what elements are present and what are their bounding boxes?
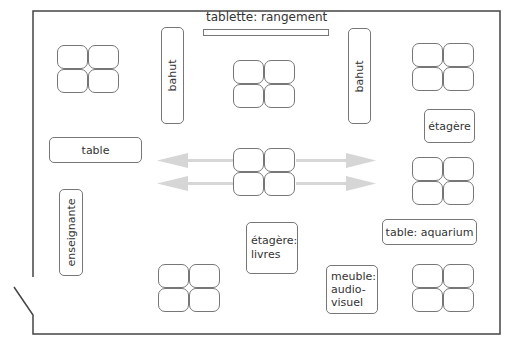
desk [412,157,443,181]
desk [189,264,220,288]
tablette-rangement-label: tablette: rangement [206,10,327,24]
arrow-right-lower-icon [296,176,376,191]
meuble-line1: meuble: [331,270,376,283]
desk [233,84,264,108]
enseignante-label: enseignante [65,198,78,266]
desk [443,43,474,67]
desk [412,288,443,312]
etagere-livres: étagère: livres [246,222,298,274]
arrow-left-upper-icon [157,153,233,168]
desk [88,45,119,69]
bahut-left: bahut [161,27,184,124]
desk [158,288,189,312]
arrow-right-upper-icon [296,153,376,168]
table: table [49,137,142,163]
desk [412,43,443,67]
etagere-label: étagère [428,120,471,133]
desk [412,181,443,205]
enseignante-desk: enseignante [59,189,83,276]
desk [233,60,264,84]
bahut-left-label: bahut [166,60,179,92]
desk [189,288,220,312]
desk [264,172,295,196]
bahut-right: bahut [348,28,371,124]
desk [233,148,264,172]
desk [443,264,474,288]
desk [412,67,443,91]
etagere: étagère [424,109,475,143]
etagere-livres-line2: livres [251,248,280,262]
desk [233,172,264,196]
meuble-line3: visuel [331,296,363,309]
arrow-left-lower-icon [157,176,233,191]
desk [412,264,443,288]
desk [88,69,119,93]
tablette-rangement-shelf [203,29,329,36]
desk-cluster-top-right [412,43,475,91]
desk-cluster-top-center [233,60,296,108]
desk [264,84,295,108]
desk-cluster-top-left [57,45,120,93]
bahut-right-label: bahut [353,60,366,92]
meuble-line2: audio- [331,283,366,296]
desk-cluster-bottom-center [158,264,221,312]
desk-cluster-bottom-right [412,264,475,312]
desk [264,148,295,172]
desk [264,60,295,84]
desk [158,264,189,288]
meuble-audio-visuel: meuble: audio- visuel [326,265,378,314]
table-aquarium-label: table: aquarium [386,226,474,239]
desk [57,45,88,69]
etagere-livres-line1: étagère: [251,234,297,248]
desk [57,69,88,93]
table-aquarium: table: aquarium [382,219,477,245]
desk-cluster-middle-right [412,157,475,205]
desk [443,288,474,312]
desk [443,157,474,181]
table-label: table [82,144,110,157]
desk-cluster-center [233,148,296,196]
desk [443,181,474,205]
desk [443,67,474,91]
